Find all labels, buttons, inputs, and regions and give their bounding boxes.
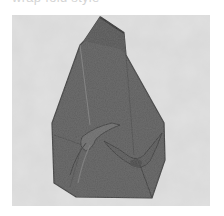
- cloth-wrap-photo: [12, 15, 210, 206]
- clipped-caption-text: wrap fold style: [12, 0, 212, 5]
- photo-illustration: [12, 15, 210, 206]
